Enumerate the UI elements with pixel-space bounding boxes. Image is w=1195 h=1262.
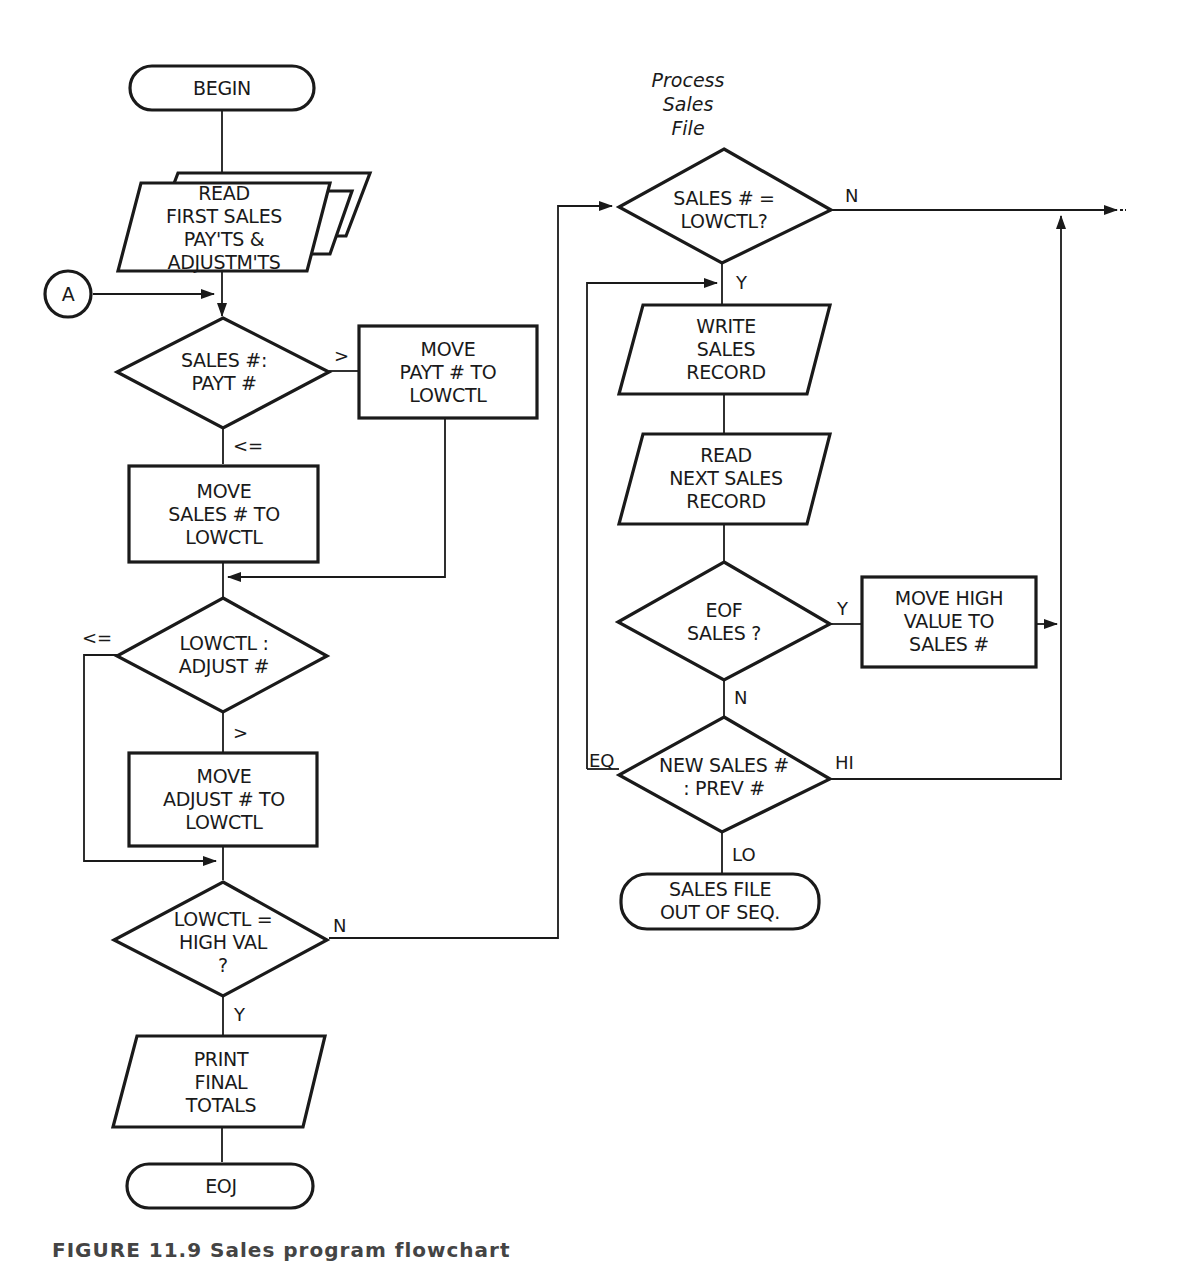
move-payt-label: MOVE PAYT # TO LOWCTL <box>400 338 497 407</box>
connector-line <box>329 206 612 938</box>
connector-line <box>830 216 1061 779</box>
edge-label-le: <= <box>82 628 112 648</box>
edge-label-le: <= <box>233 436 263 456</box>
write-sales-label: WRITE SALES RECORD <box>686 315 765 384</box>
edge-label-gt: > <box>334 346 349 366</box>
figure-caption: FIGURE 11.9 Sales program flowchart <box>52 1238 510 1262</box>
edge-label-y: Y <box>736 273 747 293</box>
read-next-label: READ NEXT SALES RECORD <box>669 444 783 513</box>
begin-label: BEGIN <box>193 77 251 100</box>
move-adjust-label: MOVE ADJUST # TO LOWCTL <box>163 765 285 834</box>
decision-lowctl-adjust-label: LOWCTL : ADJUST # <box>179 632 269 678</box>
decision-eof-label: EOF SALES ? <box>687 599 761 645</box>
edge-label-n: N <box>734 688 747 708</box>
decision-sales-payt-label: SALES #: PAYT # <box>181 349 267 395</box>
edge-label-gt: > <box>233 723 248 743</box>
edge-label-lo: LO <box>732 845 756 865</box>
process-sales-file-note: Process Sales File <box>652 68 725 140</box>
edge-label-hi: HI <box>835 753 854 773</box>
move-sales-label: MOVE SALES # TO LOWCTL <box>168 480 280 549</box>
read-first-label: READ FIRST SALES PAY'TS & ADJUSTM'TS <box>166 182 282 274</box>
decision-new-prev-label: NEW SALES # : PREV # <box>659 754 789 800</box>
decision-sales-lowctl-label: SALES # = LOWCTL? <box>673 187 774 233</box>
move-high-label: MOVE HIGH VALUE TO SALES # <box>895 587 1003 656</box>
edge-label-n: N <box>845 186 858 206</box>
edge-label-y: Y <box>837 599 848 619</box>
decision-highval-label: LOWCTL = HIGH VAL ? <box>174 908 273 977</box>
eoj-label: EOJ <box>205 1175 237 1198</box>
edge-label-eq: EQ <box>589 751 615 771</box>
out-of-seq-label: SALES FILE OUT OF SEQ. <box>660 878 780 924</box>
connector-a-label: A <box>62 283 75 306</box>
edge-label-y: Y <box>234 1005 245 1025</box>
edge-label-n: N <box>333 916 346 936</box>
print-totals-label: PRINT FINAL TOTALS <box>186 1048 257 1117</box>
